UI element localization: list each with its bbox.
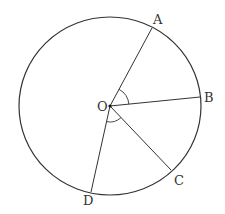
angle-mark-AOB xyxy=(119,89,129,104)
segment-OA xyxy=(110,28,152,106)
segment-OC xyxy=(110,106,171,170)
segment-OB xyxy=(110,97,200,106)
center-point xyxy=(108,104,111,107)
label-O: O xyxy=(97,99,108,114)
label-B: B xyxy=(204,90,214,105)
angle-mark-COD xyxy=(107,118,122,122)
circle-diagram: O A B C D xyxy=(0,0,225,214)
segment-OD xyxy=(91,106,110,192)
label-C: C xyxy=(174,173,184,188)
label-A: A xyxy=(152,12,163,27)
label-D: D xyxy=(83,193,93,208)
